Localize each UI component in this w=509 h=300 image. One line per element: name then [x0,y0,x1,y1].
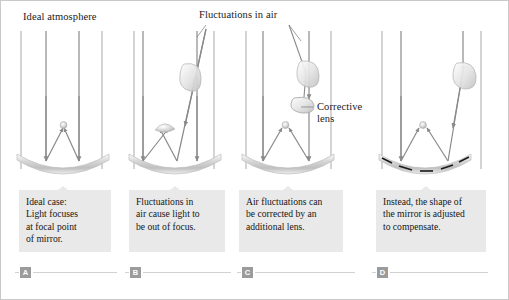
focal-point-d [420,122,427,129]
panel-marker-a: A [15,267,123,278]
label-corrective-lens-line1: Corrective [317,101,362,113]
panel-marker-b: B [125,267,237,278]
caption-d-line-0: Instead, the shape of [383,196,479,208]
caption-box-a: Ideal case: Light focuses at focal point… [19,190,111,252]
panel-marker-c: C [237,267,361,278]
caption-a-line-3: of mirror. [26,233,104,245]
marker-tick-d [372,272,376,273]
label-corrective-lens-line2: lens [317,113,334,125]
corrective-lens-c [291,97,314,113]
reflected-ray-a-left [46,128,63,161]
label-fluctuations-in-air: Fluctuations in air [199,9,277,21]
reflected-ray-d-right [427,128,448,161]
caption-a-line-1: Light focuses [26,208,104,220]
caption-box-b: Fluctuations in air cause light to be ou… [129,190,225,252]
marker-letter-c: C [242,267,253,278]
turbulence-lens-c [297,61,319,87]
caption-b-line-1: air cause light to [136,208,218,220]
reflected-ray-c-left [263,128,282,161]
marker-letter-d: D [377,267,388,278]
panel-a-optics [17,31,109,174]
panel-b-optics [129,29,221,174]
caption-a-line-2: at focal point [26,221,104,233]
adaptive-optics-figure: Ideal atmosphere Fluctuations in air Cor… [0,0,509,300]
caption-box-c: Air fluctuations can be corrected by an … [239,190,343,252]
marker-tick-c [237,272,241,273]
caption-box-d: Instead, the shape of the mirror is adju… [376,190,486,252]
label-ideal-atmosphere: Ideal atmosphere [23,11,97,23]
reflected-ray-a-right [64,128,79,161]
reflected-ray-b-right [160,129,177,161]
caption-c-line-1: be corrected by an [246,208,336,220]
turbulence-lens-b [180,64,201,92]
mirror-c [242,154,334,174]
marker-letter-b: B [130,267,141,278]
marker-letter-a: A [20,267,31,278]
diagram-canvas [1,1,509,300]
marker-rule-c [255,272,355,273]
blurred-focus-b [155,124,175,133]
panel-marker-d: D [372,267,494,278]
turbulence-lens-d [453,63,476,90]
marker-rule-d [390,272,488,273]
reflected-ray-b-left [143,129,168,161]
caption-a-line-0: Ideal case: [26,196,104,208]
caption-c-line-0: Air fluctuations can [246,196,336,208]
focal-point-c [282,122,289,129]
caption-d-line-2: to compensate. [383,221,479,233]
reflected-ray-d-left [401,128,419,161]
marker-tick-a [15,272,19,273]
caption-d-line-1: the mirror is adjusted [383,208,479,220]
marker-tick-b [125,272,129,273]
panel-c-optics [242,25,334,174]
caption-b-line-0: Fluctuations in [136,196,218,208]
focal-point-a [60,122,67,129]
caption-c-line-2: additional lens. [246,221,336,233]
marker-rule-b [143,272,231,273]
leader-fluctuations-right [289,25,301,41]
panel-d-optics [379,31,481,174]
marker-rule-a [33,272,117,273]
mirror-a [17,154,109,174]
reflected-ray-c-right [289,128,309,161]
caption-b-line-2: be out of focus. [136,221,218,233]
